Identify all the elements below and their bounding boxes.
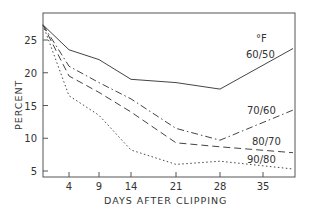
legend-label-90-80: 90/80	[247, 154, 276, 165]
x-axis-title: DAYS AFTER CLIPPING	[104, 195, 227, 206]
y-axis-ticks: 510152025	[24, 35, 48, 177]
x-tick-label: 28	[214, 181, 227, 192]
series-lines	[43, 25, 293, 169]
y-tick-label: 20	[24, 68, 37, 79]
x-tick-label: 4	[66, 181, 72, 192]
y-tick-label: 10	[24, 133, 37, 144]
legend-label-80-70: 80/70	[252, 136, 281, 147]
y-axis-title: PERCENT	[13, 80, 24, 130]
legend-labels: °F 60/50 70/60 80/70 90/80	[246, 33, 281, 165]
y-tick-label: 15	[24, 101, 37, 112]
x-axis-ticks: 4914212835	[66, 172, 270, 192]
y-tick-label: 25	[24, 35, 37, 46]
legend-title: °F	[256, 33, 267, 44]
y-tick-label: 5	[31, 166, 37, 177]
line-chart: 510152025 4914212835 °F 60/50 70/60 80/7…	[0, 0, 311, 217]
legend-label-60-50: 60/50	[246, 49, 275, 60]
x-tick-label: 21	[170, 181, 183, 192]
series-line-90-80	[43, 25, 293, 169]
x-tick-label: 14	[125, 181, 138, 192]
x-tick-label: 9	[96, 181, 102, 192]
legend-label-70-60: 70/60	[247, 105, 276, 116]
x-tick-label: 35	[257, 181, 270, 192]
series-line-80-70	[43, 25, 293, 153]
